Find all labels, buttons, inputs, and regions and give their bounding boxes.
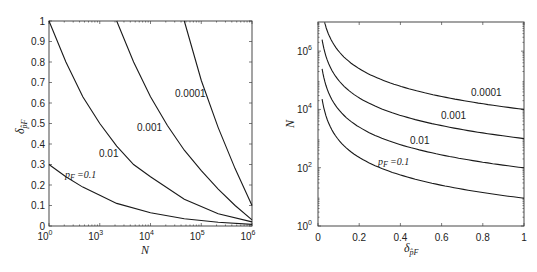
left-x-tick-label: 104 xyxy=(139,229,154,242)
curve-pF0.1 xyxy=(322,99,524,198)
left-curve-label-0.001: 0.001 xyxy=(137,122,162,133)
left-x-tick-label: 105 xyxy=(190,229,205,242)
right-plot-frame xyxy=(318,22,524,226)
left-y-tick-label: 0.3 xyxy=(31,159,45,170)
left-chart: 00.10.20.30.40.50.60.70.80.91 1001031041… xyxy=(13,16,256,258)
left-y-tick-label: 0.1 xyxy=(31,200,45,211)
curve-0.001 xyxy=(117,21,252,220)
right-x-tick-label: 1 xyxy=(521,232,527,243)
right-curve-label-0.001: 0.001 xyxy=(441,110,466,121)
left-y-tick-label: 0.2 xyxy=(31,180,45,191)
left-curve-label-pf-0.1: pF=0.1 xyxy=(64,169,96,182)
right-x-tick-label: 0.8 xyxy=(476,232,490,243)
right-chart: 100102104106 00.20.40.60.81 δp̂F N pF=0.… xyxy=(283,22,527,257)
left-x-tick-label: 100 xyxy=(37,229,52,242)
left-x-tick-label: 106 xyxy=(240,229,255,242)
left-y-tick-label: 1 xyxy=(39,16,45,27)
right-x-tick-label: 0 xyxy=(315,232,321,243)
curve-0.0001 xyxy=(184,21,252,206)
left-y-tick-label: 0 xyxy=(39,221,45,232)
right-curve-label-pf-0.1: pF=0.1 xyxy=(377,156,409,169)
left-y-tick-label: 0.9 xyxy=(31,36,45,47)
left-curve-label-0.0001: 0.0001 xyxy=(175,88,206,99)
left-curve-label-0.01: 0.01 xyxy=(99,148,119,159)
left-x-tick-label: 103 xyxy=(88,229,103,242)
left-x-axis-label: N xyxy=(140,243,150,257)
right-y-tick-label: 104 xyxy=(297,102,312,115)
left-y-tick-label: 0.6 xyxy=(31,98,45,109)
right-curve-label-0.01: 0.01 xyxy=(410,135,430,146)
left-y-tick-label: 0.8 xyxy=(31,57,45,68)
right-x-ticks: 00.20.40.60.81 xyxy=(315,22,527,243)
figure: 00.10.20.30.40.50.60.70.80.91 1001031041… xyxy=(0,0,537,272)
right-x-tick-label: 0.6 xyxy=(435,232,449,243)
left-y-axis-label: δp̂F xyxy=(13,119,29,134)
left-y-tick-label: 0.7 xyxy=(31,77,45,88)
right-y-tick-label: 100 xyxy=(297,219,312,232)
right-x-tick-label: 0.2 xyxy=(352,232,366,243)
right-y-tick-label: 106 xyxy=(297,44,312,57)
right-y-tick-label: 102 xyxy=(297,161,312,174)
right-x-axis-label: δp̂F xyxy=(404,241,419,257)
right-curve-label-0.0001: 0.0001 xyxy=(471,87,502,98)
right-y-axis-label: N xyxy=(283,119,297,129)
right-curves xyxy=(322,22,524,198)
left-y-tick-label: 0.5 xyxy=(31,118,45,129)
left-y-tick-label: 0.4 xyxy=(31,139,45,150)
